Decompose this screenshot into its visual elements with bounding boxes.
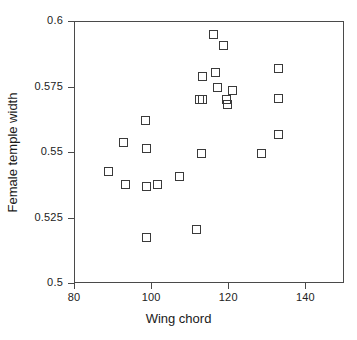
x-axis-tick-label: 120	[208, 291, 248, 303]
y-axis-tick	[68, 152, 74, 153]
scatter-plot-figure: 801001201400.50.5250.550.5750.6 Female t…	[0, 0, 357, 340]
y-axis-tick	[68, 21, 74, 22]
y-axis-tick	[68, 218, 74, 219]
y-axis-label: Female temple width	[6, 92, 21, 212]
x-axis-tick	[74, 283, 75, 289]
x-axis-tick-label: 80	[54, 291, 94, 303]
x-axis-tick	[228, 283, 229, 289]
y-axis-tick	[68, 283, 74, 284]
x-axis-label: Wing chord	[0, 311, 357, 326]
x-axis-tick	[151, 283, 152, 289]
x-axis-tick-label: 100	[131, 291, 171, 303]
x-axis-tick	[305, 283, 306, 289]
y-axis-tick	[68, 87, 74, 88]
plot-frame	[74, 21, 344, 283]
x-axis-tick-label: 140	[285, 291, 325, 303]
y-axis-label-container: Female temple width	[0, 0, 26, 304]
